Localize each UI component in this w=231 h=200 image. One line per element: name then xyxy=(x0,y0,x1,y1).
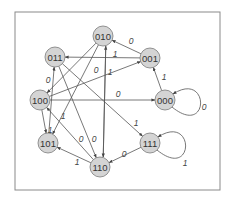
edge-label: 0 xyxy=(46,75,51,85)
edge-label: 1 xyxy=(108,67,113,77)
edge-label: 1 xyxy=(134,118,139,128)
edge-label: 0 xyxy=(116,89,121,99)
edge-010-to-110 xyxy=(103,46,106,157)
edge-label: 0 xyxy=(94,65,99,75)
edge-label: 0 xyxy=(122,149,127,159)
state-node-100: 100 xyxy=(30,90,50,110)
edge-label: 0 xyxy=(202,102,207,112)
state-label: 110 xyxy=(92,162,107,173)
edge-111-to-111 xyxy=(157,132,186,158)
edge-label: 1 xyxy=(183,158,188,168)
edge-000-to-001 xyxy=(153,67,161,90)
state-label: 001 xyxy=(142,53,158,64)
state-node-010: 010 xyxy=(93,26,113,46)
edge-labels-layer: 0110100110111000 xyxy=(46,36,207,168)
edge-000-to-000 xyxy=(172,89,201,115)
edge-label: 1 xyxy=(61,111,66,121)
state-label: 010 xyxy=(95,31,111,42)
edge-label: 0 xyxy=(79,134,84,144)
edge-001-to-011 xyxy=(65,57,140,58)
state-node-101: 101 xyxy=(38,133,58,153)
state-diagram: 010011001100000101111110 011010011011100… xyxy=(0,0,231,200)
state-node-110: 110 xyxy=(90,157,110,177)
state-node-011: 011 xyxy=(45,47,65,67)
state-node-001: 001 xyxy=(140,48,160,68)
state-label: 100 xyxy=(32,95,48,106)
edges-layer xyxy=(42,40,201,163)
state-label: 000 xyxy=(157,95,173,106)
edge-label: 1 xyxy=(48,125,53,135)
state-node-111: 111 xyxy=(140,133,160,153)
edge-label: 0 xyxy=(129,36,134,46)
state-label: 111 xyxy=(143,138,157,149)
edge-label: 1 xyxy=(75,157,80,167)
edge-label: 1 xyxy=(162,72,167,82)
edge-label: 1 xyxy=(113,49,118,59)
edge-100-to-101 xyxy=(42,110,46,133)
state-label: 101 xyxy=(40,138,56,149)
state-label: 011 xyxy=(47,52,62,63)
state-node-000: 000 xyxy=(155,90,175,110)
edge-label: 0 xyxy=(92,134,97,144)
